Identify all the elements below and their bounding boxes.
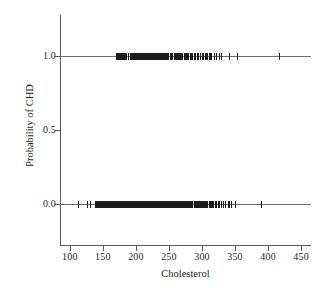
data-point	[221, 201, 222, 208]
data-point	[90, 201, 91, 208]
data-point	[216, 201, 217, 208]
data-point	[195, 53, 196, 60]
y-tick-label: 0.5	[16, 125, 56, 135]
data-point	[214, 53, 215, 60]
data-point	[221, 53, 222, 60]
x-tick-label: 450	[281, 252, 321, 262]
x-axis-title: Cholesterol	[60, 268, 311, 279]
data-point	[231, 201, 232, 208]
data-point	[128, 53, 129, 60]
data-point	[87, 201, 88, 208]
data-point	[225, 201, 226, 208]
y-tick-label: 1.0	[16, 51, 56, 61]
y-tick-label: 0.0	[16, 199, 56, 209]
data-point	[216, 53, 217, 60]
data-point	[235, 201, 236, 208]
data-point	[237, 53, 238, 60]
data-point	[78, 201, 79, 208]
data-point	[279, 53, 280, 60]
chart-figure: 0.00.51.0 100150200250300350400450 Chole…	[0, 0, 328, 292]
data-point	[229, 201, 230, 208]
data-point	[261, 201, 262, 208]
y-axis-title: Probability of CHD	[24, 46, 35, 206]
data-point	[211, 53, 212, 60]
data-point	[198, 53, 199, 60]
data-point	[229, 53, 230, 60]
data-point	[219, 201, 220, 208]
data-point	[219, 53, 220, 60]
x-axis-line	[60, 245, 311, 246]
